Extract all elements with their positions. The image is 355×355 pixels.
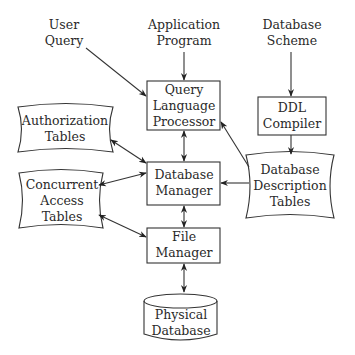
database-manager-label: Database Manager — [154, 167, 213, 199]
application-program-label: Application Program — [148, 17, 220, 49]
database-scheme-label: Database Scheme — [262, 17, 321, 49]
database-description-tables-label: Database Description Tables — [253, 162, 326, 210]
concurrent-access-tables-label: Concurrent Access Tables — [26, 177, 99, 225]
edge-desc-tables-to-qlp — [221, 122, 249, 167]
physical-database-label: Physical Database — [151, 307, 210, 339]
file-manager-label: File Manager — [155, 229, 212, 261]
edge-auth-dbm — [111, 140, 146, 163]
edge-concurrent-fm — [99, 215, 146, 237]
authorization-tables-label: Authorization Tables — [22, 113, 108, 145]
ddl-compiler-label: DDL Compiler — [263, 100, 321, 132]
user-query-label: User Query — [45, 17, 84, 49]
edge-user-query-to-qlp — [86, 48, 146, 96]
edge-concurrent-dbm — [99, 173, 146, 185]
query-language-processor-label: Query Language Processor — [153, 82, 216, 130]
